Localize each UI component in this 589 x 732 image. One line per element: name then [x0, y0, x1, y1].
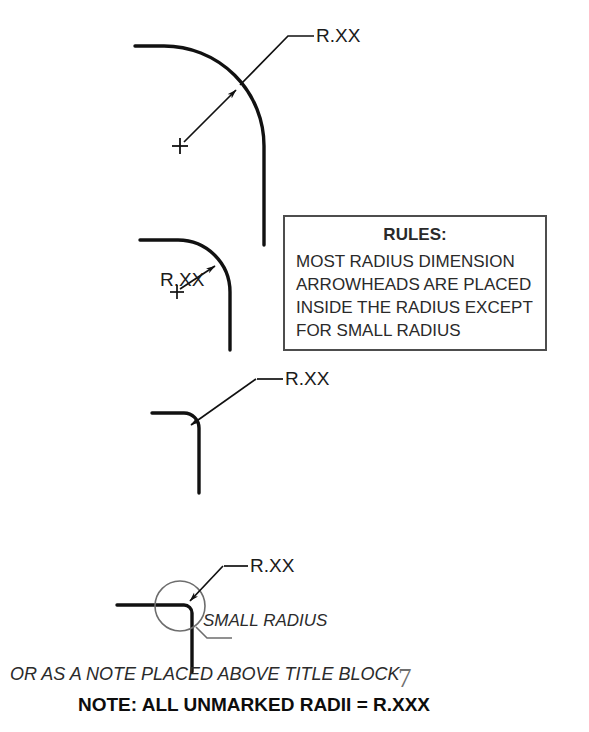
large-radius-label: R.XX: [316, 26, 360, 45]
medium-radius-profile: [140, 240, 230, 350]
rules-title: RULES:: [285, 225, 545, 245]
outside-leader-arrow: [191, 379, 256, 425]
rules-line-list: MOST RADIUS DIMENSION ARROWHEADS ARE PLA…: [296, 250, 544, 342]
rules-box: RULES: MOST RADIUS DIMENSION ARROWHEADS …: [283, 215, 547, 351]
figure-outside-leader-radius: [152, 379, 283, 493]
drawing-page: R.XX R.XX R.XX R.XX SMALL RADIUS RULES: …: [0, 0, 589, 732]
rules-line: MOST RADIUS DIMENSION: [296, 250, 544, 273]
rules-line: INSIDE THE RADIUS EXCEPT: [296, 296, 544, 319]
large-radius-leader-line: [240, 36, 314, 85]
figure-large-radius: [135, 36, 314, 245]
large-radius-dimension-arrow: [184, 90, 236, 142]
rules-line: ARROWHEADS ARE PLACED: [296, 273, 544, 296]
note-main-text: NOTE: ALL UNMARKED RADII = R.XXX: [78, 694, 430, 716]
rules-line: FOR SMALL RADIUS: [296, 319, 544, 342]
large-radius-profile: [135, 46, 264, 245]
small-radius-label: R.XX: [250, 556, 294, 575]
outside-leader-radius-label: R.XX: [285, 369, 329, 388]
note-alternative-text: OR AS A NOTE PLACED ABOVE TITLE BLOCK: [10, 664, 399, 685]
figure-medium-radius: [140, 240, 230, 350]
small-radius-profile: [117, 605, 192, 672]
page-mark: 7: [398, 663, 412, 694]
medium-radius-label: R.XX: [160, 270, 204, 289]
small-radius-leader-arrow: [190, 566, 223, 601]
small-radius-caption: SMALL RADIUS: [203, 611, 327, 631]
